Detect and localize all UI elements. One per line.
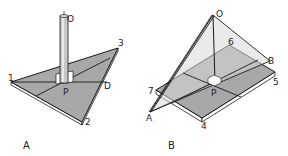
corner-label-5: 5 <box>273 77 279 87</box>
panel-a: O P D 1 2 3 A <box>8 11 124 151</box>
vertex-label-1: 1 <box>8 73 14 83</box>
vertex-label-2: 2 <box>85 117 91 127</box>
point-label-p: P <box>211 88 217 98</box>
panel-label-b: B <box>168 140 175 151</box>
point-label-a: A <box>146 113 153 123</box>
point-label-o: O <box>216 9 223 19</box>
point-label-b: B <box>268 56 274 66</box>
corner-label-6: 6 <box>228 37 234 47</box>
panel-label-a: A <box>23 140 30 151</box>
corner-label-7: 7 <box>148 86 154 96</box>
panel-b: O P A B 4 5 6 7 B <box>146 9 279 151</box>
point-label-d: D <box>104 81 111 91</box>
point-label-o: O <box>67 14 74 24</box>
diagram-canvas: O P D 1 2 3 A O P A B 4 5 6 7 <box>0 0 288 156</box>
vertex-label-3: 3 <box>118 38 124 48</box>
point-label-p: P <box>63 87 69 97</box>
corner-label-4: 4 <box>201 121 207 131</box>
vertical-rod <box>60 16 68 83</box>
